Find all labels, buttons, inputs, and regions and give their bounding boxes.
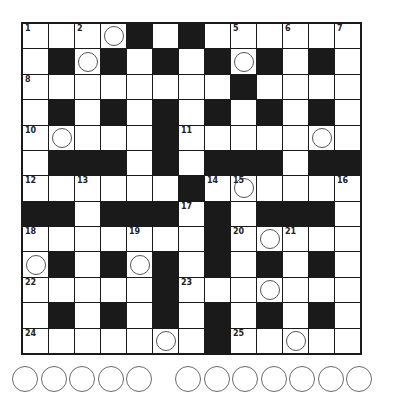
- answer-letter-slot[interactable]: [41, 366, 67, 392]
- grid-cell[interactable]: [75, 202, 100, 226]
- grid-cell[interactable]: [153, 227, 178, 251]
- grid-cell[interactable]: 13: [75, 176, 100, 200]
- grid-cell[interactable]: [49, 24, 74, 48]
- grid-cell[interactable]: [231, 278, 256, 302]
- grid-cell[interactable]: 12: [23, 176, 48, 200]
- grid-cell[interactable]: [335, 100, 360, 124]
- grid-cell[interactable]: [179, 303, 204, 327]
- grid-cell[interactable]: [231, 252, 256, 276]
- answer-letter-slot[interactable]: [69, 366, 95, 392]
- grid-cell[interactable]: [101, 126, 126, 150]
- grid-cell[interactable]: 14: [205, 176, 230, 200]
- grid-cell[interactable]: 2: [75, 24, 100, 48]
- grid-cell[interactable]: [283, 329, 308, 353]
- grid-cell[interactable]: [23, 100, 48, 124]
- grid-cell[interactable]: [179, 252, 204, 276]
- grid-cell[interactable]: [231, 202, 256, 226]
- grid-cell[interactable]: [205, 278, 230, 302]
- grid-cell[interactable]: [75, 126, 100, 150]
- grid-cell[interactable]: 11: [179, 126, 204, 150]
- grid-cell[interactable]: [153, 176, 178, 200]
- grid-cell[interactable]: 6: [283, 24, 308, 48]
- grid-cell[interactable]: [49, 176, 74, 200]
- grid-cell[interactable]: [127, 303, 152, 327]
- grid-cell[interactable]: [101, 75, 126, 99]
- grid-cell[interactable]: [283, 75, 308, 99]
- grid-cell[interactable]: 20: [231, 227, 256, 251]
- grid-cell[interactable]: [23, 252, 48, 276]
- grid-cell[interactable]: [49, 126, 74, 150]
- grid-cell[interactable]: [283, 126, 308, 150]
- grid-cell[interactable]: [335, 49, 360, 73]
- grid-cell[interactable]: [257, 227, 282, 251]
- grid-cell[interactable]: [205, 24, 230, 48]
- grid-cell[interactable]: [257, 278, 282, 302]
- grid-cell[interactable]: [257, 75, 282, 99]
- grid-cell[interactable]: [127, 329, 152, 353]
- grid-cell[interactable]: [75, 252, 100, 276]
- grid-cell[interactable]: [101, 278, 126, 302]
- grid-cell[interactable]: [23, 49, 48, 73]
- grid-cell[interactable]: [75, 303, 100, 327]
- answer-letter-slot[interactable]: [232, 366, 258, 392]
- grid-cell[interactable]: [335, 303, 360, 327]
- grid-cell[interactable]: 18: [23, 227, 48, 251]
- grid-cell[interactable]: [283, 278, 308, 302]
- grid-cell[interactable]: [75, 329, 100, 353]
- answer-letter-slot[interactable]: [318, 366, 344, 392]
- grid-cell[interactable]: [335, 202, 360, 226]
- grid-cell[interactable]: [205, 75, 230, 99]
- grid-cell[interactable]: [49, 278, 74, 302]
- grid-cell[interactable]: [335, 227, 360, 251]
- grid-cell[interactable]: 7: [335, 24, 360, 48]
- grid-cell[interactable]: [309, 126, 334, 150]
- grid-cell[interactable]: 15: [231, 176, 256, 200]
- grid-cell[interactable]: [335, 278, 360, 302]
- answer-letter-slot[interactable]: [261, 366, 287, 392]
- grid-cell[interactable]: [179, 329, 204, 353]
- grid-cell[interactable]: [283, 176, 308, 200]
- grid-cell[interactable]: [127, 278, 152, 302]
- grid-cell[interactable]: [75, 100, 100, 124]
- grid-cell[interactable]: [127, 49, 152, 73]
- grid-cell[interactable]: [309, 24, 334, 48]
- grid-cell[interactable]: 8: [23, 75, 48, 99]
- grid-cell[interactable]: [309, 176, 334, 200]
- grid-cell[interactable]: 19: [127, 227, 152, 251]
- grid-cell[interactable]: [153, 329, 178, 353]
- grid-cell[interactable]: [283, 151, 308, 175]
- answer-letter-slot[interactable]: [12, 366, 38, 392]
- grid-cell[interactable]: [179, 151, 204, 175]
- grid-cell[interactable]: [283, 252, 308, 276]
- grid-cell[interactable]: [257, 24, 282, 48]
- grid-cell[interactable]: [127, 75, 152, 99]
- grid-cell[interactable]: [127, 176, 152, 200]
- grid-cell[interactable]: [101, 176, 126, 200]
- grid-cell[interactable]: [75, 227, 100, 251]
- grid-cell[interactable]: [205, 126, 230, 150]
- grid-cell[interactable]: [231, 100, 256, 124]
- grid-cell[interactable]: [335, 126, 360, 150]
- grid-cell[interactable]: [153, 24, 178, 48]
- grid-cell[interactable]: [335, 75, 360, 99]
- grid-cell[interactable]: [153, 75, 178, 99]
- grid-cell[interactable]: 25: [231, 329, 256, 353]
- grid-cell[interactable]: [75, 278, 100, 302]
- grid-cell[interactable]: 21: [283, 227, 308, 251]
- grid-cell[interactable]: [49, 329, 74, 353]
- grid-cell[interactable]: 22: [23, 278, 48, 302]
- grid-cell[interactable]: [309, 278, 334, 302]
- grid-cell[interactable]: 10: [23, 126, 48, 150]
- grid-cell[interactable]: [101, 227, 126, 251]
- grid-cell[interactable]: [309, 329, 334, 353]
- grid-cell[interactable]: [257, 176, 282, 200]
- grid-cell[interactable]: [127, 100, 152, 124]
- grid-cell[interactable]: [101, 24, 126, 48]
- grid-cell[interactable]: [75, 49, 100, 73]
- answer-letter-slot[interactable]: [204, 366, 230, 392]
- grid-cell[interactable]: [23, 303, 48, 327]
- grid-cell[interactable]: [309, 75, 334, 99]
- answer-letter-slot[interactable]: [98, 366, 124, 392]
- grid-cell[interactable]: [257, 126, 282, 150]
- grid-cell[interactable]: [179, 100, 204, 124]
